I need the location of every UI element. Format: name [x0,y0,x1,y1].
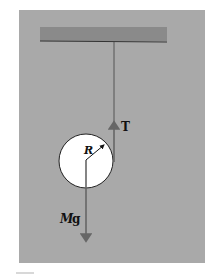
tension-label: T [121,120,130,134]
radius-label: R [83,144,93,157]
figure-caption-mark [16,272,34,274]
pulley-diagram: T R M g [0,0,214,278]
ceiling-bar [40,27,167,41]
weight-label-g: g [72,212,81,226]
ceiling-edge [40,41,167,42]
